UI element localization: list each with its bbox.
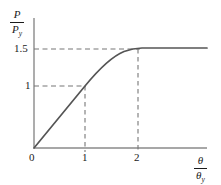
y-axis-fraction: P Py <box>10 9 24 38</box>
x-axis-numerator: θ <box>194 155 207 167</box>
x-axis-fraction: θ θy <box>194 155 207 184</box>
load-rotation-curve <box>34 48 207 148</box>
x-tick-label-0: 0 <box>29 152 35 163</box>
y-tick-label-1: 1 <box>25 80 31 91</box>
y-axis-denominator-subscript: y <box>19 29 22 38</box>
y-axis-title: P Py <box>10 9 24 38</box>
x-axis-title: θ θy <box>194 155 207 184</box>
x-tick-label-2: 2 <box>134 152 140 163</box>
x-tick-label-1: 1 <box>82 152 88 163</box>
y-axis-numerator: P <box>10 9 24 21</box>
y-axis-denominator: Py <box>10 24 24 38</box>
y-tick-label-1-5: 1.5 <box>14 43 28 54</box>
x-axis-denominator-subscript: y <box>201 175 204 184</box>
figure-container: P Py θ θy 1.5 1 0 1 2 <box>0 0 221 185</box>
x-axis-denominator: θy <box>194 170 207 184</box>
